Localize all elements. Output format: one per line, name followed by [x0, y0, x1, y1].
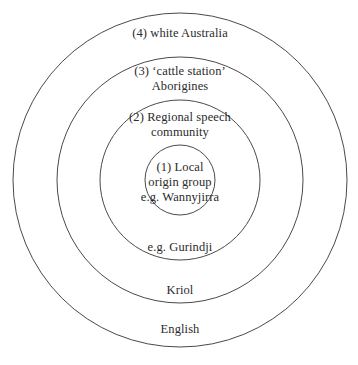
label-level-3-top: (3) ‘cattle station’ Aborigines [86, 64, 274, 94]
label-level-4-bottom-language: English [96, 322, 264, 337]
label-level-4-top: (4) white Australia [79, 26, 281, 41]
label-level-1-center: (1) Local origin group e.g. Wannyjirra [101, 160, 259, 204]
diagram-canvas: (4) white Australia (3) ‘cattle station’… [0, 0, 358, 365]
label-level-3-bottom-language: Kriol [96, 283, 264, 298]
label-level-2-top: (2) Regional speech community [86, 110, 274, 140]
label-level-2-bottom-example: e.g. Gurindji [96, 240, 264, 255]
